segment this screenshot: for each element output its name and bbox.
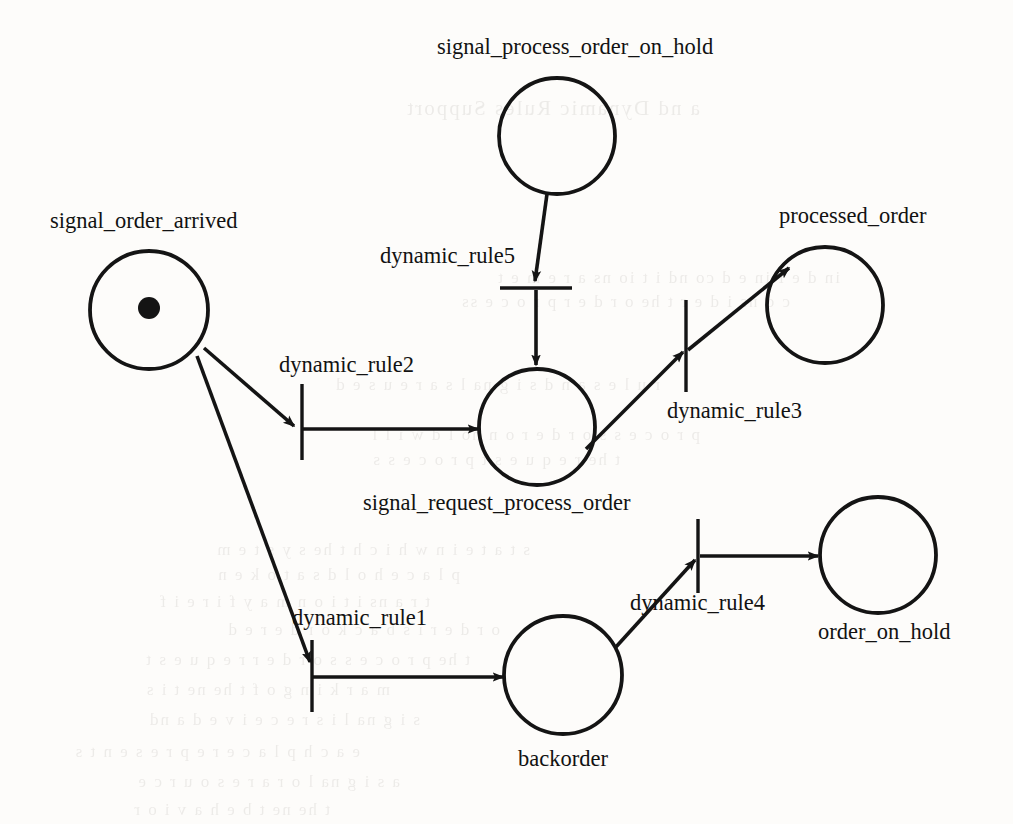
place-label-order_on_hold: order_on_hold <box>818 621 950 644</box>
transition-label-dynamic_rule4: dynamic_rule4 <box>630 592 765 615</box>
token-signal_order_arrived <box>138 297 160 319</box>
place-label-signal_request_process_order: signal_request_process_order <box>363 492 630 515</box>
place-label-processed_order: processed_order <box>779 205 926 228</box>
transition-label-dynamic_rule2: dynamic_rule2 <box>279 354 414 377</box>
place-processed_order[interactable] <box>767 247 883 363</box>
place-signal_process_order_on_hold[interactable] <box>499 78 615 194</box>
transition-label-dynamic_rule3: dynamic_rule3 <box>667 400 802 423</box>
place-label-backorder: backorder <box>518 748 608 771</box>
petri-net-canvas <box>0 0 1013 824</box>
transition-label-dynamic_rule5: dynamic_rule5 <box>380 245 515 268</box>
place-label-signal_order_arrived: signal_order_arrived <box>50 210 237 233</box>
place-backorder[interactable] <box>504 616 622 734</box>
arc-on-hold-signal-to-rule5 <box>535 194 547 281</box>
transition-label-dynamic_rule1: dynamic_rule1 <box>292 607 427 630</box>
place-order_on_hold[interactable] <box>820 497 936 613</box>
petri-net-diagram: a nd Dynamic Rules Supportin d e f in e … <box>0 0 1013 824</box>
place-label-signal_process_order_on_hold: signal_process_order_on_hold <box>437 36 713 59</box>
place-signal_request_process_order[interactable] <box>479 369 595 485</box>
